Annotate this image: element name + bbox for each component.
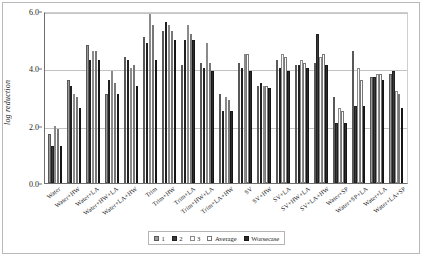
legend-item[interactable]: 3 — [190, 235, 201, 242]
bar-group — [254, 13, 273, 183]
bar — [230, 111, 232, 183]
bar — [306, 68, 308, 183]
legend-label: 1 — [162, 235, 165, 242]
bar-group — [179, 13, 198, 183]
bar-group — [122, 13, 141, 183]
legend-item[interactable]: 2 — [172, 235, 183, 242]
bar — [136, 86, 138, 183]
bar — [155, 60, 157, 183]
bar — [98, 60, 100, 183]
y-tick-mark — [39, 126, 42, 127]
y-tick-label: 6.0 — [29, 8, 39, 17]
bar — [60, 146, 62, 183]
legend-swatch-icon — [244, 236, 249, 241]
bar-group — [311, 13, 330, 183]
legend-label: 3 — [197, 235, 200, 242]
y-tick-label: 2.0 — [29, 122, 39, 131]
bar — [325, 65, 327, 183]
bar-group — [236, 13, 255, 183]
bar-group — [103, 13, 122, 183]
bar — [382, 80, 384, 183]
bar — [363, 106, 365, 183]
y-tick-label: 4.0 — [29, 65, 39, 74]
bar — [249, 71, 251, 183]
bar — [344, 123, 346, 183]
y-axis-tick-labels: 0.02.04.06.0 — [16, 12, 42, 184]
x-tick-label: SV+HW — [251, 185, 273, 204]
y-tick-label: 0.0 — [29, 180, 39, 189]
bar-group — [46, 13, 65, 183]
y-tick-mark — [39, 184, 42, 185]
bar-group — [84, 13, 103, 183]
bar — [79, 108, 81, 183]
legend-swatch-icon — [207, 236, 212, 241]
bar-group — [349, 13, 368, 183]
bar-group — [217, 13, 236, 183]
legend-swatch-icon — [172, 236, 177, 241]
bar-group — [330, 13, 349, 183]
legend-swatch-icon — [190, 236, 195, 241]
bar-groups — [45, 13, 407, 183]
bar — [268, 88, 270, 183]
legend-label: Worsecase — [251, 235, 279, 242]
chart-figure: log reduction 0.02.04.06.0 WaterWater+HW… — [0, 0, 423, 257]
y-axis-label: log reduction — [1, 52, 15, 152]
y-tick-mark — [39, 69, 42, 70]
bar — [401, 108, 403, 183]
bar — [174, 40, 176, 183]
plot-area — [44, 12, 408, 184]
y-tick-mark — [39, 12, 42, 13]
legend-label: 2 — [179, 235, 182, 242]
bar — [287, 71, 289, 183]
x-tick-label: SV — [243, 185, 254, 196]
legend-item[interactable]: 1 — [154, 235, 165, 242]
bar-group — [198, 13, 217, 183]
bar — [117, 94, 119, 183]
legend-item[interactable]: Average — [207, 235, 236, 242]
bar-group — [65, 13, 84, 183]
legend-swatch-icon — [154, 236, 159, 241]
bar-group — [141, 13, 160, 183]
legend-label: Average — [215, 235, 237, 242]
legend-item[interactable]: Worsecase — [244, 235, 280, 242]
bar-group — [387, 13, 406, 183]
bar — [211, 71, 213, 183]
bar-group — [273, 13, 292, 183]
bar — [192, 40, 194, 183]
bar-group — [368, 13, 387, 183]
bar-group — [292, 13, 311, 183]
chart-legend: 123AverageWorsecase — [148, 231, 285, 245]
bar-group — [160, 13, 179, 183]
x-axis-tick-labels: WaterWater+HWWater+LAWater+HW+LAWater+LA… — [44, 185, 408, 229]
